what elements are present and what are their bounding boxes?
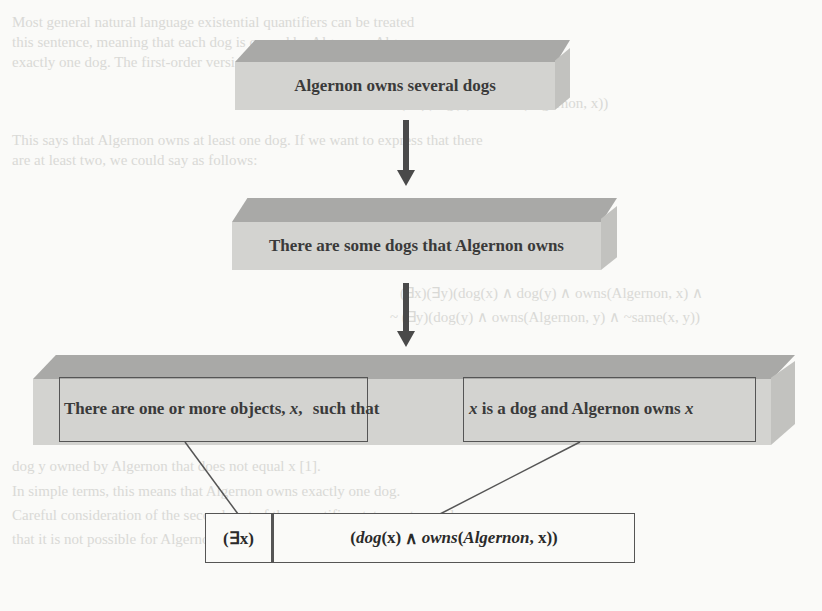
formula-matrix: (dog(x) ∧ owns(Algernon, x)): [274, 514, 634, 562]
formula-box: (∃x) (dog(x) ∧ owns(Algernon, x)): [205, 513, 635, 563]
constant-algernon: Algernon: [463, 528, 529, 548]
formula-quantifier: (∃x): [206, 514, 274, 562]
predicate-owns: owns: [422, 528, 458, 548]
arg: (x): [381, 528, 401, 548]
args-rest: , x)): [529, 528, 557, 548]
predicate-dog: dog: [356, 528, 382, 548]
and-symbol: ∧: [401, 528, 422, 549]
